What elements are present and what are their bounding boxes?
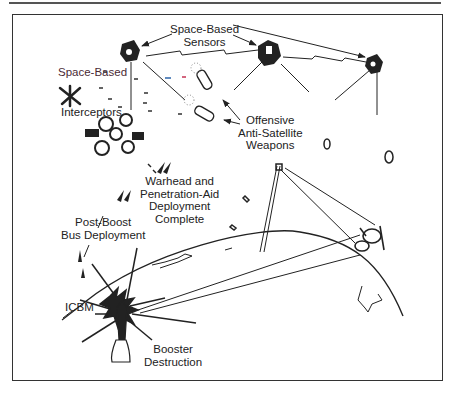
label-space-based-sensors: Space-Based Sensors — [170, 23, 239, 48]
label-line: Offensive — [238, 114, 303, 127]
label-line: Booster — [144, 343, 202, 356]
label-line: Anti-Satellite — [238, 127, 303, 140]
label-post-boost: Post-Boost Bus Deployment — [61, 216, 145, 241]
comm-link — [146, 50, 258, 56]
diagram-artwork — [0, 0, 455, 394]
label-offensive-asat: Offensive Anti-Satellite Weapons — [238, 114, 303, 152]
label-booster-destruction: Booster Destruction — [144, 343, 202, 368]
label-line: Warhead and — [140, 175, 219, 188]
asat-weapon — [193, 69, 215, 123]
label-line: Destruction — [144, 356, 202, 369]
label-line: Interceptors — [61, 106, 122, 119]
label-line: Space-Based — [58, 66, 127, 79]
label-icbm: ICBM — [65, 301, 94, 314]
label-line: Bus Deployment — [61, 229, 145, 242]
label-line: Weapons — [238, 139, 303, 152]
label-line: ICBM — [65, 301, 94, 314]
interceptor-small — [60, 86, 80, 106]
label-warhead-deployment: Warhead and Penetration-Aid Deployment C… — [140, 175, 219, 225]
label-line: Complete — [140, 213, 219, 226]
label-space-based-interceptors-line2: Interceptors — [61, 106, 122, 119]
label-line: Post-Boost — [61, 216, 145, 229]
comm-link — [283, 56, 366, 62]
label-line: Deployment — [140, 200, 219, 213]
label-line: Sensors — [170, 36, 239, 49]
sensor-satellite-left — [120, 40, 140, 62]
label-line: Space-Based — [170, 23, 239, 36]
tracking-satellite — [355, 226, 384, 251]
continent-outline — [152, 254, 192, 268]
sensor-satellite-center — [258, 40, 281, 66]
label-space-based-interceptors-line1: Space-Based — [58, 66, 127, 79]
sensor-satellite-right — [365, 54, 383, 74]
continent-outline-right — [358, 286, 382, 312]
interceptor-garage — [86, 114, 143, 155]
label-line: Penetration-Aid — [140, 188, 219, 201]
